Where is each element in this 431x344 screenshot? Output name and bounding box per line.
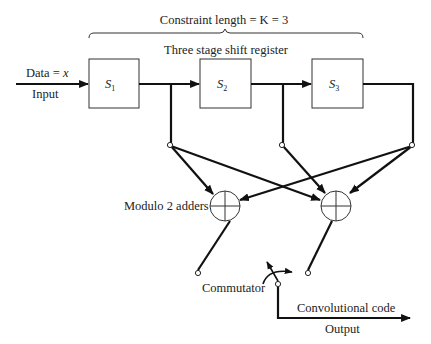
- tap-node-2: [279, 142, 284, 147]
- data-input-label: Data = x: [26, 66, 69, 80]
- tap-node-3: [409, 142, 414, 147]
- register-brace: [89, 29, 363, 38]
- modulo-2-adders-label: Modulo 2 adders: [124, 199, 209, 213]
- output-label: Output: [325, 322, 360, 336]
- stage-s2: S2: [200, 59, 251, 108]
- adder-2: [321, 191, 351, 221]
- stage-s1: S1: [89, 59, 139, 108]
- adder-1: [210, 191, 240, 221]
- commutator-contact-1: [195, 270, 200, 275]
- commutator-pivot: [275, 281, 280, 286]
- constraint-length-label: Constraint length = K = 3: [160, 13, 288, 27]
- tap3-to-adder1: [240, 146, 412, 200]
- stage-s3: S3: [312, 59, 363, 108]
- input-label: Input: [32, 87, 59, 101]
- tap-node-1: [167, 142, 172, 147]
- convolutional-code-label: Convolutional code: [297, 301, 396, 315]
- convolutional-encoder-diagram: Constraint length = K = 3 Three stage sh…: [0, 0, 431, 344]
- adder1-output-wire: [198, 221, 230, 270]
- tap3-to-adder2: [350, 146, 412, 193]
- commutator-label: Commutator: [202, 281, 266, 295]
- commutator-contact-2: [305, 270, 310, 275]
- shift-register-label: Three stage shift register: [164, 43, 289, 57]
- s3-output-wire: [363, 84, 413, 143]
- tap2-to-adder2: [283, 146, 325, 193]
- adder2-output-wire: [308, 221, 332, 270]
